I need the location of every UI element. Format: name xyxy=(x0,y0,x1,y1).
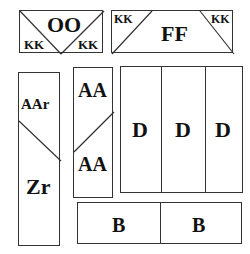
d-group-panel: D D D xyxy=(120,66,243,193)
aar-zr-panel: AAr Zr xyxy=(18,72,60,246)
d-divider-2 xyxy=(205,67,206,192)
aar-label: AAr xyxy=(21,97,49,112)
aa-top-label: AA xyxy=(78,80,107,100)
zr-label: Zr xyxy=(26,176,50,198)
b-cell-label-1: B xyxy=(112,215,125,235)
d-cell-label-3: D xyxy=(215,119,231,141)
b-cell-label-2: B xyxy=(192,215,205,235)
b-divider xyxy=(160,203,161,243)
d-cell-label-1: D xyxy=(132,119,148,141)
ff-panel: FF KK KK xyxy=(111,10,233,53)
b-group-panel: B B xyxy=(77,202,242,244)
oo-corner-label-right: KK xyxy=(78,38,98,51)
ff-main-label: FF xyxy=(161,23,188,45)
d-cell-label-2: D xyxy=(175,119,191,141)
aa-panel: AA AA xyxy=(73,67,113,198)
oo-panel: OO KK KK xyxy=(19,10,103,53)
ff-corner-label-left: KK xyxy=(114,13,133,25)
ff-corner-label-right: KK xyxy=(211,13,230,25)
oo-main-label: OO xyxy=(47,14,81,36)
d-divider-1 xyxy=(161,67,162,192)
oo-corner-label-left: KK xyxy=(24,38,44,51)
aa-bottom-label: AA xyxy=(78,154,107,174)
